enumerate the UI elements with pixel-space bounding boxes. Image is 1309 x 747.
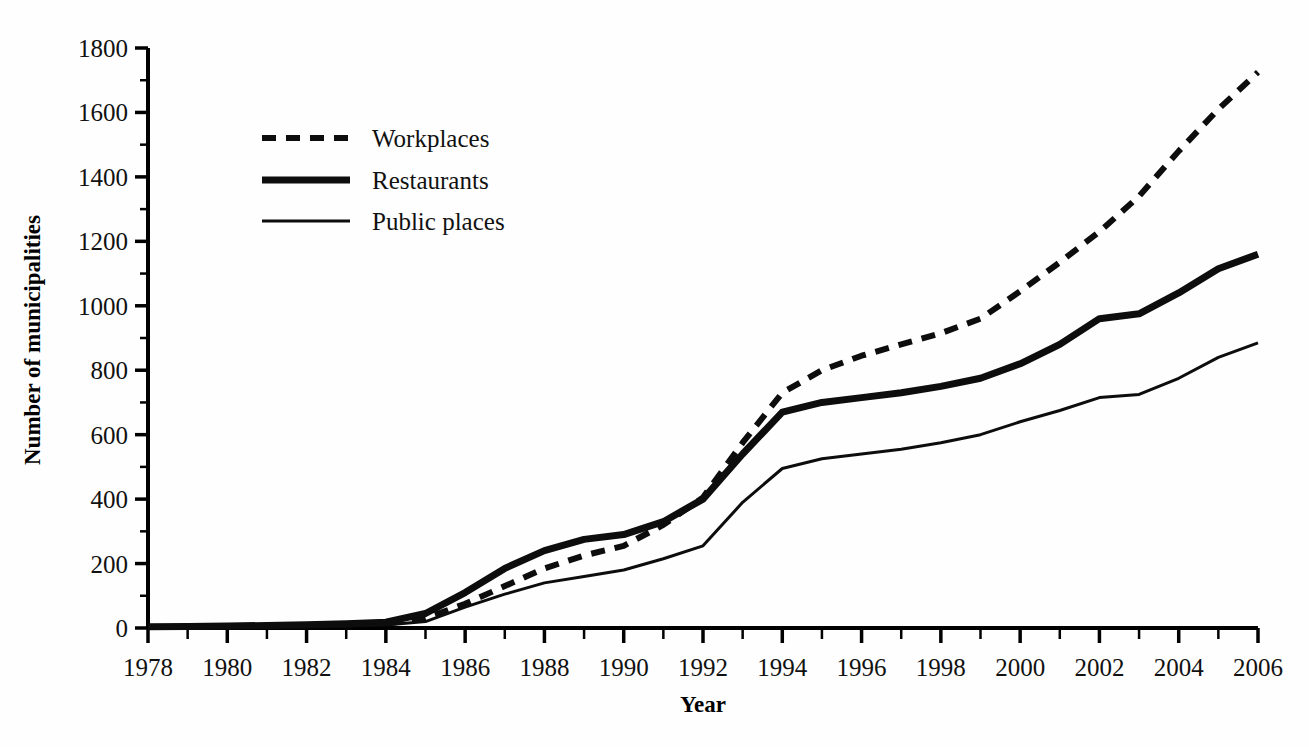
y-tick-label: 1800 (78, 35, 128, 62)
x-tick-label: 1990 (599, 654, 649, 681)
x-tick-label: 1982 (282, 654, 332, 681)
series-line-public-places (148, 343, 1258, 628)
chart-figure: 020040060080010001200140016001800 197819… (0, 0, 1309, 747)
y-tick-label: 1400 (78, 164, 128, 191)
y-tick-label: 200 (91, 551, 129, 578)
line-chart: 020040060080010001200140016001800 197819… (0, 0, 1309, 747)
x-tick-label: 2000 (995, 654, 1045, 681)
legend-label-restaurants: Restaurants (372, 167, 489, 194)
y-tick-label: 1000 (78, 293, 128, 320)
y-tick-label: 1600 (78, 99, 128, 126)
series-line-restaurants (148, 254, 1258, 626)
y-tick-label: 800 (91, 357, 129, 384)
x-tick-label: 2004 (1154, 654, 1205, 681)
x-tick-label: 2006 (1233, 654, 1283, 681)
legend-label-public-places: Public places (372, 208, 505, 235)
series-group (148, 72, 1258, 627)
y-axis-tick-labels: 020040060080010001200140016001800 (78, 35, 128, 642)
x-tick-label: 1996 (837, 654, 887, 681)
x-tick-label: 2002 (1074, 654, 1124, 681)
x-tick-label: 1992 (678, 654, 728, 681)
y-tick-label: 400 (91, 486, 129, 513)
x-tick-label: 1988 (519, 654, 569, 681)
y-tick-label: 1200 (78, 228, 128, 255)
x-axis-tick-labels: 1978198019821984198619881990199219941996… (123, 654, 1283, 681)
x-tick-label: 1998 (916, 654, 966, 681)
x-tick-label: 1994 (757, 654, 808, 681)
x-tick-label: 1978 (123, 654, 173, 681)
y-tick-label: 600 (91, 422, 129, 449)
y-tick-label: 0 (116, 615, 129, 642)
y-axis-title: Number of municipalities (20, 215, 45, 465)
legend: WorkplacesRestaurantsPublic places (262, 125, 505, 235)
x-tick-label: 1980 (202, 654, 252, 681)
x-axis-title: Year (680, 692, 726, 717)
legend-label-workplaces: Workplaces (372, 125, 489, 152)
x-axis-ticks (148, 628, 1258, 643)
x-tick-label: 1986 (440, 654, 490, 681)
x-tick-label: 1984 (361, 654, 412, 681)
